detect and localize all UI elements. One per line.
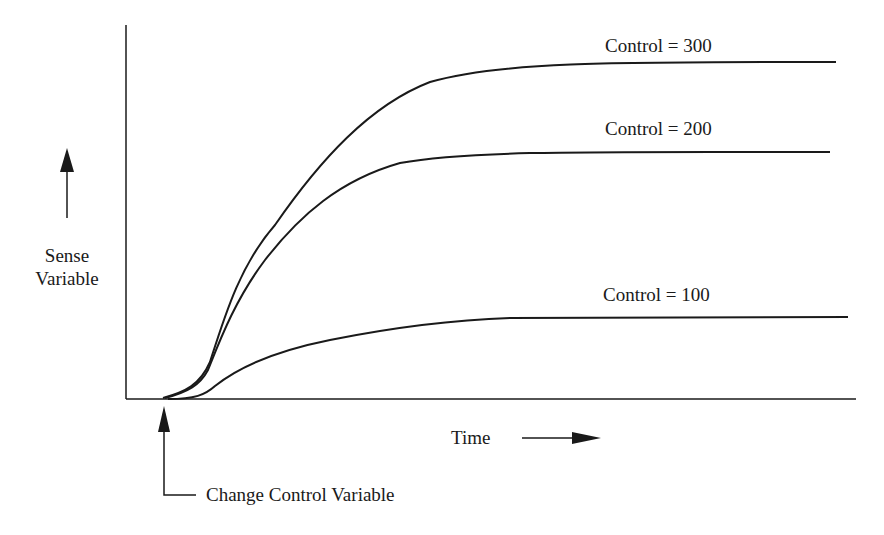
y-axis-label-line1: Sense <box>45 245 89 266</box>
x-axis-label: Time <box>451 427 490 448</box>
curve-control-200 <box>165 152 830 398</box>
label-control-200: Control = 200 <box>605 118 712 139</box>
curve-control-100 <box>168 317 848 399</box>
label-control-100: Control = 100 <box>603 284 710 305</box>
annotation-arrow-up-icon <box>158 406 170 432</box>
annotation-leader-line <box>164 430 196 495</box>
y-arrow-up-icon <box>60 148 74 172</box>
curve-control-300 <box>163 62 836 398</box>
annotation-label: Change Control Variable <box>206 484 395 505</box>
label-control-300: Control = 300 <box>605 35 712 56</box>
x-arrow-right-icon <box>572 432 601 444</box>
y-axis-label-line2: Variable <box>35 268 98 289</box>
step-response-chart: Control = 300 Control = 200 Control = 10… <box>0 0 884 535</box>
